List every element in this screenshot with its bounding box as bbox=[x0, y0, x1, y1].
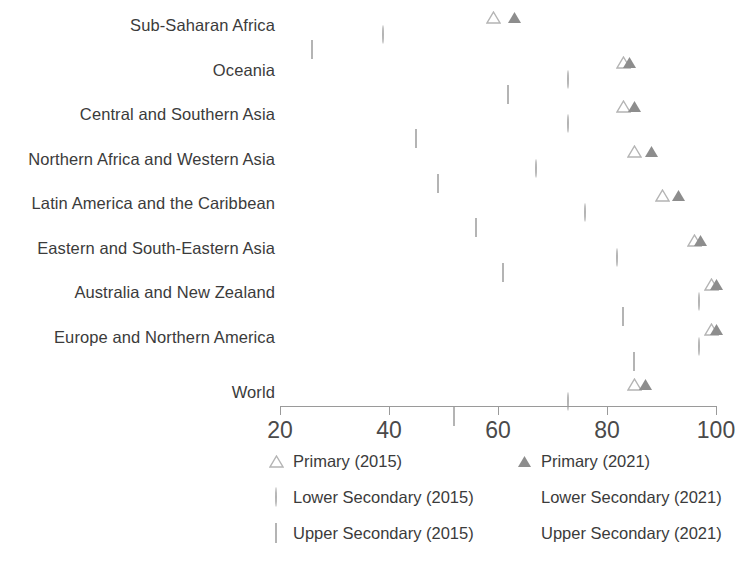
x-axis-tick-label: 60 bbox=[485, 417, 511, 444]
legend-item[interactable]: Lower Secondary (2015) bbox=[268, 488, 474, 507]
x-axis-tick-label: 100 bbox=[697, 417, 735, 444]
x-axis-tick-label: 80 bbox=[594, 417, 620, 444]
marker-triangle-filled-icon bbox=[709, 323, 724, 336]
marker-circle-open-icon bbox=[698, 293, 700, 311]
legend-item[interactable]: Upper Secondary (2021) bbox=[516, 524, 722, 543]
legend-swatch bbox=[268, 526, 284, 542]
category-row: Europe and Northern America bbox=[0, 317, 743, 362]
legend-swatch bbox=[268, 454, 284, 470]
legend-swatch bbox=[516, 490, 532, 506]
marker-triangle-filled-icon bbox=[693, 234, 708, 247]
legend-label: Primary (2021) bbox=[541, 452, 650, 471]
x-axis-tick bbox=[607, 406, 608, 415]
marker-square-open-icon bbox=[633, 353, 635, 371]
marker-triangle-open-icon bbox=[655, 189, 670, 202]
category-label: Central and Southern Asia bbox=[15, 105, 275, 124]
legend-item[interactable]: Lower Secondary (2021) bbox=[516, 488, 722, 507]
marker-circle-open-icon bbox=[535, 160, 537, 178]
x-axis-tick bbox=[716, 406, 717, 415]
education-completion-rate-chart: Sub-Saharan AfricaOceaniaCentral and Sou… bbox=[0, 0, 743, 564]
marker-circle-open-icon bbox=[567, 71, 569, 89]
marker-circle-open-icon bbox=[584, 204, 586, 222]
marker-triangle-open-icon bbox=[269, 455, 284, 468]
x-axis: 20406080100 bbox=[0, 406, 743, 450]
x-axis-tick bbox=[498, 406, 499, 415]
legend-label: Lower Secondary (2015) bbox=[293, 488, 474, 507]
category-label: World bbox=[15, 383, 275, 402]
marker-circle-open-icon bbox=[382, 26, 384, 44]
legend-swatch bbox=[516, 454, 532, 470]
legend-item[interactable]: Primary (2015) bbox=[268, 452, 402, 471]
category-label: Europe and Northern America bbox=[15, 328, 275, 347]
category-row: Oceania bbox=[0, 50, 743, 95]
marker-circle-open-icon bbox=[275, 488, 277, 507]
marker-triangle-filled-icon bbox=[517, 455, 532, 468]
legend-swatch bbox=[516, 526, 532, 542]
category-label: Australia and New Zealand bbox=[15, 283, 275, 302]
legend-item[interactable]: Upper Secondary (2015) bbox=[268, 524, 474, 543]
legend-label: Upper Secondary (2015) bbox=[293, 524, 474, 543]
legend-swatch bbox=[268, 490, 284, 506]
legend-label: Primary (2015) bbox=[293, 452, 402, 471]
legend-label: Upper Secondary (2021) bbox=[541, 524, 722, 543]
marker-triangle-filled-icon bbox=[507, 11, 522, 24]
category-row: Sub-Saharan Africa bbox=[0, 5, 743, 50]
category-label: Sub-Saharan Africa bbox=[15, 16, 275, 35]
legend-label: Lower Secondary (2021) bbox=[541, 488, 722, 507]
marker-circle-open-icon bbox=[698, 338, 700, 356]
marker-triangle-filled-icon bbox=[709, 278, 724, 291]
category-row: Latin America and the Caribbean bbox=[0, 183, 743, 228]
marker-triangle-open-icon bbox=[627, 145, 642, 158]
chart-legend: Primary (2015)Primary (2021)Lower Second… bbox=[0, 448, 743, 558]
marker-triangle-filled-icon bbox=[638, 378, 653, 391]
category-label: Oceania bbox=[15, 61, 275, 80]
marker-circle-open-icon bbox=[567, 115, 569, 133]
x-axis-tick bbox=[280, 406, 281, 415]
x-axis-tick-label: 40 bbox=[376, 417, 402, 444]
marker-triangle-filled-icon bbox=[627, 100, 642, 113]
x-axis-tick bbox=[389, 406, 390, 415]
marker-triangle-filled-icon bbox=[622, 56, 637, 69]
category-row: Eastern and South-Eastern Asia bbox=[0, 228, 743, 273]
category-label: Eastern and South-Eastern Asia bbox=[15, 239, 275, 258]
x-axis-tick-label: 20 bbox=[267, 417, 293, 444]
category-label: Latin America and the Caribbean bbox=[15, 194, 275, 213]
marker-triangle-filled-icon bbox=[644, 145, 659, 158]
marker-triangle-filled-icon bbox=[671, 189, 686, 202]
legend-item[interactable]: Primary (2021) bbox=[516, 452, 650, 471]
marker-triangle-open-icon bbox=[486, 11, 501, 24]
marker-circle-open-icon bbox=[616, 249, 618, 267]
category-label: Northern Africa and Western Asia bbox=[15, 150, 275, 169]
plot-area: Sub-Saharan AfricaOceaniaCentral and Sou… bbox=[0, 0, 743, 410]
category-row: Central and Southern Asia bbox=[0, 94, 743, 139]
category-row: Australia and New Zealand bbox=[0, 272, 743, 317]
marker-square-open-icon bbox=[275, 524, 277, 543]
category-row: Northern Africa and Western Asia bbox=[0, 139, 743, 184]
